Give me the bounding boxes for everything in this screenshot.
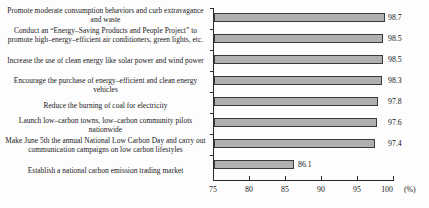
bar	[214, 97, 378, 106]
x-axis-tick-label: 85	[281, 185, 289, 194]
category-label: Make June 5th the annual National Low Ca…	[3, 136, 208, 155]
x-axis-tick-label: 75	[209, 185, 217, 194]
bar-value-label: 97.8	[388, 97, 402, 106]
bar	[214, 76, 382, 85]
plot-area: 98.7 98.5 98.5 98.3 97.8 97.6 97.4 86.1 …	[213, 8, 393, 181]
category-label: Reduce the burning of coal for electrici…	[3, 101, 208, 110]
x-axis-tick-label: 100	[381, 185, 393, 194]
category-label: Launch low–carbon towns, low–carbon comm…	[3, 116, 208, 135]
category-label: Conduct an “Energy–Saving Products and P…	[3, 26, 208, 45]
category-label-group: Promote moderate consumption behaviors a…	[0, 0, 211, 208]
category-label: Establish a national carbon emission tra…	[3, 166, 208, 175]
x-axis-line	[213, 180, 394, 181]
bar	[214, 160, 294, 169]
category-label: Increase the use of clean energy like so…	[3, 56, 208, 65]
bar-value-label: 98.5	[388, 55, 402, 64]
y-axis-tick	[210, 71, 214, 72]
category-label: Promote moderate consumption behaviors a…	[3, 6, 208, 25]
bar	[214, 34, 383, 43]
y-axis-tick	[210, 29, 214, 30]
x-axis-unit-label: (%)	[404, 185, 416, 194]
horizontal-bar-chart: Promote moderate consumption behaviors a…	[0, 0, 429, 208]
bar-value-label: 97.4	[388, 139, 402, 148]
bar-value-label: 97.6	[388, 118, 402, 127]
y-axis-tick	[210, 50, 214, 51]
bar-value-label: 98.5	[388, 34, 402, 43]
bar	[214, 55, 383, 64]
category-label: Encourage the purchase of energy–efficie…	[3, 76, 208, 95]
y-axis-tick	[210, 8, 214, 9]
y-axis-tick	[210, 113, 214, 114]
bar	[214, 13, 385, 22]
bar-value-label: 86.1	[298, 160, 312, 169]
y-axis-tick	[210, 134, 214, 135]
bar	[214, 118, 377, 127]
x-axis-tick	[213, 176, 214, 181]
y-axis-tick	[210, 155, 214, 156]
x-axis-tick-label: 80	[245, 185, 253, 194]
bar-value-label: 98.7	[388, 13, 402, 22]
x-axis-tick	[321, 176, 322, 181]
x-axis-tick	[393, 176, 394, 181]
x-axis-tick-label: 90	[317, 185, 325, 194]
x-axis-tick	[249, 176, 250, 181]
bar	[214, 139, 375, 148]
x-axis-tick	[285, 176, 286, 181]
bar-value-label: 98.3	[388, 76, 402, 85]
x-axis-tick	[357, 176, 358, 181]
y-axis-tick	[210, 92, 214, 93]
x-axis-tick-label: 95	[353, 185, 361, 194]
